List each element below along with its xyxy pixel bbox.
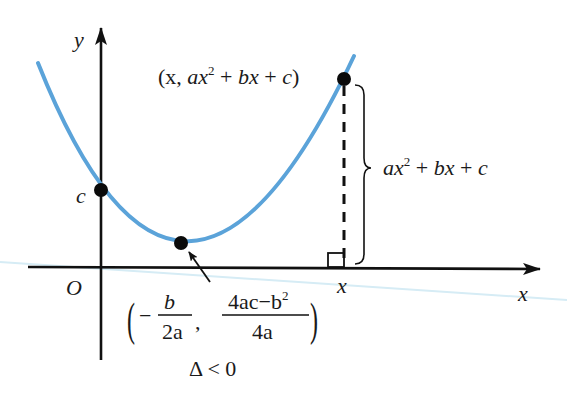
vertex-coordinate-label: ( − b 2a , 4ac−b2 4a ) xyxy=(127,288,318,345)
svg-text:2a: 2a xyxy=(162,319,183,344)
svg-text:4a: 4a xyxy=(252,319,273,344)
svg-text:−: − xyxy=(139,303,151,328)
y-intercept-point xyxy=(94,183,108,197)
svg-text:,: , xyxy=(195,309,201,334)
svg-text:4ac−b2: 4ac−b2 xyxy=(228,288,288,314)
svg-text:(: ( xyxy=(127,294,135,345)
y-axis-label: y xyxy=(72,27,84,52)
y-intercept-label: c xyxy=(76,183,86,208)
height-brace xyxy=(355,85,371,264)
vertex-point xyxy=(174,236,188,250)
svg-text:b: b xyxy=(164,289,175,314)
curve-point-label: (x, ax2 + bx + c) xyxy=(158,63,299,89)
quadratic-graph-diagram: y x O c (x, ax2 + bx + c) ax2 + bx + c x… xyxy=(0,0,567,402)
origin-label: O xyxy=(66,275,82,300)
foot-x-label: x xyxy=(336,273,347,298)
height-brace-label: ax2 + bx + c xyxy=(383,154,488,180)
right-angle-marker xyxy=(328,253,344,267)
svg-text:): ) xyxy=(310,294,318,345)
discriminant-condition: Δ < 0 xyxy=(189,356,236,381)
x-axis-label: x xyxy=(517,281,528,306)
curve-point xyxy=(337,72,351,86)
